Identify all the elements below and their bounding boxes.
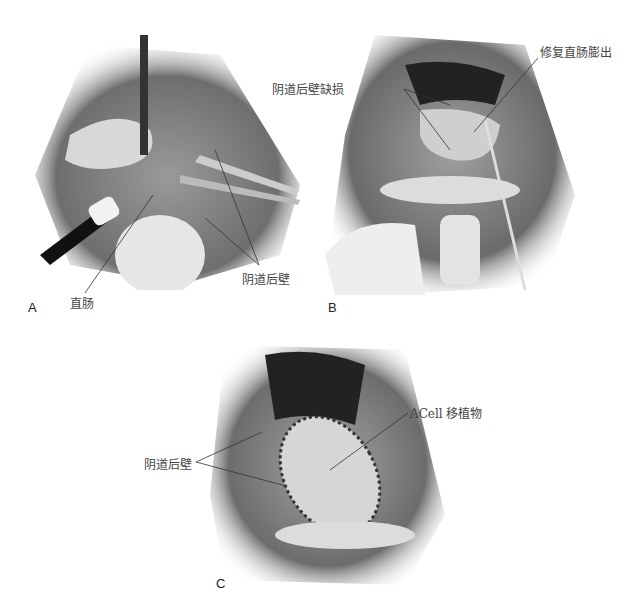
label-repaired-rectocele: 修复直肠膨出 bbox=[540, 43, 612, 60]
panel-c-illustration bbox=[205, 335, 450, 590]
label-posterior-wall-defect: 阴道后壁缺损 bbox=[272, 80, 344, 97]
panel-a-illustration bbox=[30, 25, 310, 290]
label-rectum: 直肠 bbox=[70, 294, 94, 311]
label-posterior-vaginal-wall-c: 阴道后壁 bbox=[144, 455, 192, 472]
panel-letter-b: B bbox=[328, 300, 337, 315]
label-posterior-vaginal-wall-a: 阴道后壁 bbox=[242, 270, 290, 287]
panel-letter-c: C bbox=[216, 576, 225, 591]
label-acell-graft: ACell 移植物 bbox=[410, 404, 482, 421]
panel-letter-a: A bbox=[28, 300, 37, 315]
